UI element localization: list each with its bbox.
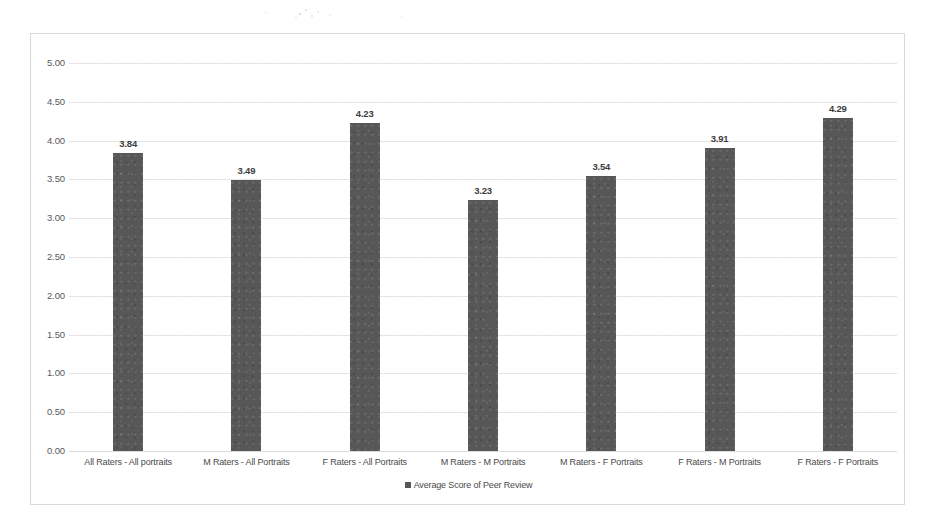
- bar-value-label: 3.23: [448, 185, 518, 196]
- bar[interactable]: [350, 123, 380, 451]
- x-axis-category-label: F Raters - F Portraits: [773, 457, 903, 467]
- x-axis-category-label: M Raters - F Portraits: [536, 457, 666, 467]
- y-axis-tick-label: 3.00: [31, 212, 65, 223]
- scan-noise-artifact: [0, 0, 932, 30]
- y-axis-tick-label: 0.50: [31, 406, 65, 417]
- y-axis-tick-label: 4.00: [31, 135, 65, 146]
- plot-area: Average Score of Peer Review 0.000.501.0…: [31, 34, 906, 506]
- x-axis-category-label: F Raters - All Portraits: [300, 457, 430, 467]
- bar[interactable]: [113, 153, 143, 451]
- chart-legend: Average Score of Peer Review: [31, 480, 906, 490]
- gridline-4.00: [69, 141, 897, 142]
- bar-value-label: 3.54: [566, 161, 636, 172]
- gridline-0.00: [69, 451, 897, 452]
- bar[interactable]: [231, 180, 261, 451]
- y-axis-tick-label: 1.00: [31, 367, 65, 378]
- y-axis-tick-label: 4.50: [31, 96, 65, 107]
- legend-label: Average Score of Peer Review: [414, 480, 533, 490]
- bar-value-label: 3.91: [685, 133, 755, 144]
- bar[interactable]: [823, 118, 853, 451]
- bar-value-label: 3.49: [211, 165, 281, 176]
- chart-container: Average Score of Peer Review 0.000.501.0…: [30, 33, 905, 505]
- x-axis-category-label: M Raters - M Portraits: [418, 457, 548, 467]
- y-axis-tick-label: 1.50: [31, 329, 65, 340]
- bar[interactable]: [468, 200, 498, 451]
- x-axis-category-label: M Raters - All Portraits: [181, 457, 311, 467]
- bar-value-label: 4.23: [330, 108, 400, 119]
- x-axis-category-label: All Raters - All portraits: [63, 457, 193, 467]
- gridline-3.50: [69, 179, 897, 180]
- y-axis-tick-label: 2.00: [31, 290, 65, 301]
- bar-value-label: 3.84: [93, 138, 163, 149]
- gridline-4.50: [69, 102, 897, 103]
- bar[interactable]: [705, 148, 735, 451]
- y-axis-tick-label: 5.00: [31, 57, 65, 68]
- y-axis-tick-label: 0.00: [31, 445, 65, 456]
- bar[interactable]: [586, 176, 616, 451]
- gridline-5.00: [69, 63, 897, 64]
- y-axis-tick-label: 2.50: [31, 251, 65, 262]
- y-axis-tick-label: 3.50: [31, 173, 65, 184]
- legend-swatch-icon: [405, 482, 411, 488]
- x-axis-category-label: F Raters - M Portraits: [655, 457, 785, 467]
- bar-value-label: 4.29: [803, 103, 873, 114]
